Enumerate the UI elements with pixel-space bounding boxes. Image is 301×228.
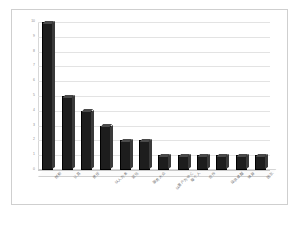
bar	[81, 111, 92, 170]
bar-column	[62, 96, 73, 170]
y-axis-tick-label: 3	[33, 124, 35, 127]
bar	[120, 140, 131, 170]
plot-area: 012345678910	[38, 22, 270, 170]
bar	[216, 155, 227, 170]
x-axis-tick-label: 认真	[74, 172, 82, 180]
y-axis-tick-label: 1	[33, 153, 35, 156]
bar-column	[178, 155, 189, 170]
x-axis-tick-label: 服务大众	[153, 172, 167, 185]
bar-column	[236, 155, 247, 170]
x-axis-labels: 创新认真责任以人为本诚信服务大众以客户为中心每个人合作追求卓越效益团队	[38, 172, 270, 206]
gridline: 0	[38, 170, 270, 171]
bar	[42, 22, 53, 170]
y-axis-tick-label: 7	[33, 65, 35, 68]
bar-series	[38, 22, 270, 170]
bar-column	[120, 140, 131, 170]
y-axis-tick-label: 10	[31, 20, 35, 23]
y-axis-tick-label: 6	[33, 79, 35, 82]
x-axis-tick-label: 追求卓越	[231, 172, 245, 185]
bar-column	[158, 155, 169, 170]
bar	[158, 155, 169, 170]
y-axis-tick-label: 4	[33, 109, 35, 112]
bar	[178, 155, 189, 170]
bar	[139, 140, 150, 170]
bar-column	[216, 155, 227, 170]
bar	[100, 126, 111, 170]
x-axis-tick-label: 团队	[267, 172, 275, 180]
bar-column	[42, 22, 53, 170]
x-axis-tick-label: 效益	[248, 172, 256, 180]
y-axis-tick-label: 8	[33, 50, 35, 53]
x-axis-tick-label: 责任	[93, 172, 101, 180]
x-axis-tick-label: 以人为本	[115, 172, 129, 185]
y-axis-tick-label: 9	[33, 35, 35, 38]
y-axis-tick-label: 5	[33, 94, 35, 97]
chart-plot-wrapper: 012345678910 创新认真责任以人为本诚信服务大众以客户为中心每个人合作…	[12, 10, 287, 204]
y-axis-tick-label: 2	[33, 139, 35, 142]
bar-column	[197, 155, 208, 170]
bar-column	[255, 155, 266, 170]
chart-frame: 012345678910 创新认真责任以人为本诚信服务大众以客户为中心每个人合作…	[11, 9, 288, 205]
bar	[236, 155, 247, 170]
bar	[62, 96, 73, 170]
bar	[255, 155, 266, 170]
bar	[197, 155, 208, 170]
y-axis-tick-label: 0	[33, 168, 35, 171]
bar-column	[81, 111, 92, 170]
x-axis-tick-label: 合作	[209, 172, 217, 180]
x-axis-tick-label: 创新	[55, 172, 63, 180]
bar-column	[139, 140, 150, 170]
x-axis-tick-label: 诚信	[132, 172, 140, 180]
bar-column	[100, 126, 111, 170]
